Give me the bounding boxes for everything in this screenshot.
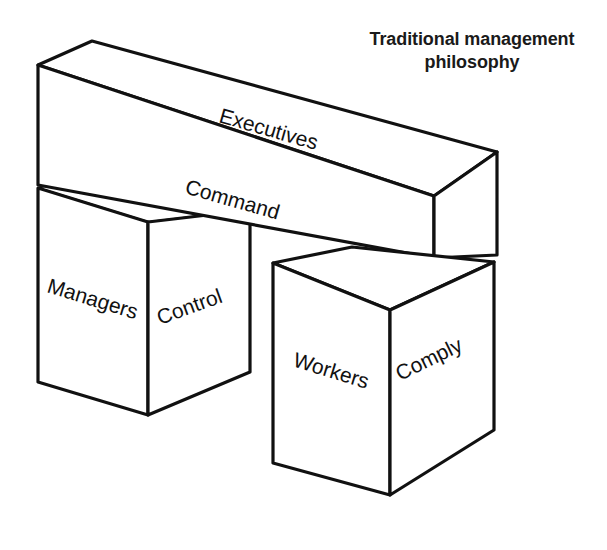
caption-line-1: Traditional management [356,28,588,51]
diagram-canvas: Executives Command Managers Control Work… [0,0,607,550]
caption-line-2: philosophy [356,51,588,74]
diagram-caption: Traditional management philosophy [356,28,588,74]
isometric-blocks-svg: Executives Command Managers Control Work… [0,0,607,550]
